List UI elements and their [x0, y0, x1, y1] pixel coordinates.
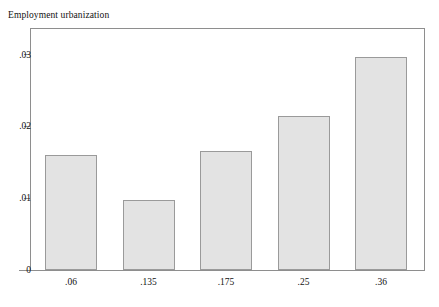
x-axis-tick-label: .175: [200, 277, 252, 288]
bar: [200, 151, 252, 270]
x-axis-tick-label: .06: [45, 277, 97, 288]
x-axis-tick-label: .36: [355, 277, 407, 288]
x-axis-tick-label: .25: [278, 277, 330, 288]
bar: [278, 116, 330, 270]
bar: [123, 200, 175, 270]
x-axis-tick-label: .135: [123, 277, 175, 288]
bar-chart-figure: Employment urbanization 0.01.02.03 .06.1…: [0, 0, 439, 307]
bar: [45, 155, 97, 270]
bar: [355, 57, 407, 270]
bars-layer: .06.135.175.25.36: [0, 0, 439, 307]
